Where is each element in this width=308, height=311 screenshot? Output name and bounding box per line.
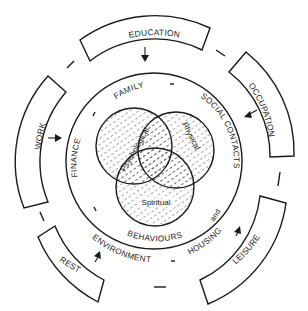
arrowhead-icon [55, 134, 62, 142]
dash [216, 50, 225, 56]
label-family: FAMILY [112, 80, 145, 101]
dash [93, 112, 95, 116]
label-and: and [208, 207, 223, 223]
arrowhead-icon [141, 55, 149, 62]
dash [94, 207, 96, 211]
label-spiritual: Spiritual [142, 198, 171, 207]
dash [278, 172, 280, 186]
label-behaviours: BEHAVIOURS [126, 229, 184, 244]
core-venn: Spiritual Psychological Physical [96, 108, 214, 226]
dash [67, 61, 74, 68]
dash [40, 212, 44, 221]
arrowhead-icon [234, 226, 241, 234]
arrowhead-icon [244, 111, 252, 118]
wellbeing-diagram: EDUCATION OCCUPATION LEISURE REST WORK [0, 0, 308, 311]
arrow-rest [95, 257, 98, 262]
label-finance: FINANCE [69, 137, 82, 178]
